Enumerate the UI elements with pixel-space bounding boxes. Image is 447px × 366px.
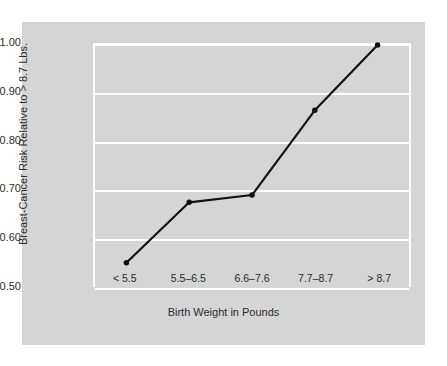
gridline [95,288,409,290]
plot-area [93,43,411,287]
data-point-marker [249,192,255,198]
y-axis-tick-label: 1.00 [0,37,21,48]
data-point-marker [186,200,192,206]
x-axis-tick-label: > 8.7 [342,272,416,284]
series-line [126,45,377,263]
line-series [95,45,409,287]
chart-panel: Breast-Cancer Risk Relative to > 8.7 Lbs… [22,22,425,345]
data-point-marker [375,42,381,48]
y-axis-tick-label: 0.50 [0,281,21,292]
x-axis-title: Birth Weight in Pounds [22,306,425,318]
y-axis-tick-label: 0.60 [0,232,21,243]
y-axis-tick-label: 0.90 [0,86,21,97]
data-point-marker [312,108,318,114]
chart-figure: Breast-Cancer Risk Relative to > 8.7 Lbs… [0,0,447,366]
y-axis-tick-label: 0.70 [0,183,21,194]
data-point-marker [124,260,130,266]
y-axis-tick-label: 0.80 [0,135,21,146]
